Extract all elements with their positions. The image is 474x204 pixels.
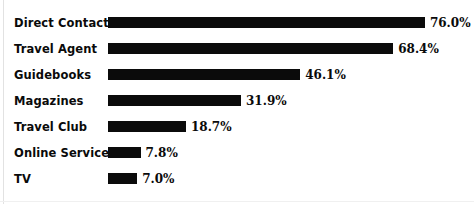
bar-value-label: 68.4% xyxy=(398,36,439,62)
bar-track: 76.0% xyxy=(108,10,474,36)
bar-track: 7.8% xyxy=(108,140,474,166)
bar-value-label: 18.7% xyxy=(191,114,232,140)
bar-fill xyxy=(108,121,186,132)
bar-value-label: 7.8% xyxy=(146,140,178,166)
bar-row: TV7.0% xyxy=(0,166,474,192)
bar-value-label: 76.0% xyxy=(430,10,471,36)
bar-fill xyxy=(108,17,425,28)
bar-category-label: TV xyxy=(14,166,106,192)
bar-track: 68.4% xyxy=(108,36,474,62)
bar-track: 18.7% xyxy=(108,114,474,140)
bar-row: Travel Agent68.4% xyxy=(0,36,474,62)
bar-category-label: Guidebooks xyxy=(14,62,106,88)
bar-category-label: Magazines xyxy=(14,88,106,114)
bar-fill xyxy=(108,95,241,106)
bar-category-label: Online Service xyxy=(14,140,106,166)
bar-fill xyxy=(108,147,141,158)
bar-fill xyxy=(108,173,137,184)
bar-row: Magazines31.9% xyxy=(0,88,474,114)
horizontal-bar-chart: Direct Contact76.0%Travel Agent68.4%Guid… xyxy=(0,0,474,204)
bar-row: Travel Club18.7% xyxy=(0,114,474,140)
bar-value-label: 46.1% xyxy=(305,62,346,88)
bar-track: 31.9% xyxy=(108,88,474,114)
bar-track: 46.1% xyxy=(108,62,474,88)
bar-value-label: 7.0% xyxy=(142,166,174,192)
bar-category-label: Travel Agent xyxy=(14,36,106,62)
bar-row: Online Service7.8% xyxy=(0,140,474,166)
bar-category-label: Direct Contact xyxy=(14,10,106,36)
bar-row: Direct Contact76.0% xyxy=(0,10,474,36)
bar-fill xyxy=(108,69,300,80)
bar-fill xyxy=(108,43,393,54)
bar-rows-container: Direct Contact76.0%Travel Agent68.4%Guid… xyxy=(0,0,474,204)
bar-track: 7.0% xyxy=(108,166,474,192)
bar-category-label: Travel Club xyxy=(14,114,106,140)
bar-row: Guidebooks46.1% xyxy=(0,62,474,88)
bar-value-label: 31.9% xyxy=(246,88,287,114)
